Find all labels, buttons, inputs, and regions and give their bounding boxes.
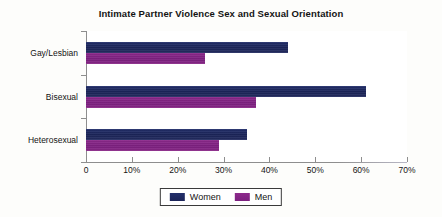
bar-chart: Intimate Partner Violence Sex and Sexual… <box>0 0 442 217</box>
x-tick <box>407 157 408 162</box>
x-tick <box>315 157 316 162</box>
y-tick <box>81 31 86 32</box>
x-tick <box>269 157 270 162</box>
x-tick <box>132 157 133 162</box>
legend-label-women: Women <box>190 192 221 202</box>
x-tick-label: 20% <box>169 165 186 175</box>
legend-item-women: Women <box>170 192 221 202</box>
women-color-swatch <box>170 193 185 201</box>
x-tick-label: 70% <box>398 165 415 175</box>
legend-label-men: Men <box>255 192 273 202</box>
x-tick-label: 10% <box>123 165 140 175</box>
bar-men-heterosexual <box>86 140 219 151</box>
men-color-swatch <box>235 193 250 201</box>
bar-women-gay-lesbian <box>86 42 288 53</box>
y-tick <box>81 75 86 76</box>
bar-women-bisexual <box>86 86 366 97</box>
bar-men-bisexual <box>86 97 256 108</box>
x-tick-label: 30% <box>215 165 232 175</box>
x-tick-label: 0 <box>84 165 89 175</box>
x-tick <box>86 157 87 162</box>
chart-title: Intimate Partner Violence Sex and Sexual… <box>0 8 442 19</box>
bar-women-heterosexual <box>86 129 247 140</box>
chart-legend: Women Men <box>160 188 282 206</box>
bar-men-gay-lesbian <box>86 53 205 64</box>
x-tick <box>224 157 225 162</box>
x-tick-label: 60% <box>353 165 370 175</box>
category-label: Gay/Lesbian <box>30 48 78 58</box>
x-axis-line <box>86 162 407 163</box>
x-tick <box>361 157 362 162</box>
y-tick <box>81 162 86 163</box>
legend-item-men: Men <box>235 192 273 202</box>
x-tick-label: 50% <box>307 165 324 175</box>
category-label: Bisexual <box>46 92 78 102</box>
x-tick-label: 40% <box>261 165 278 175</box>
category-label: Heterosexual <box>28 135 78 145</box>
x-tick <box>178 157 179 162</box>
y-tick <box>81 118 86 119</box>
